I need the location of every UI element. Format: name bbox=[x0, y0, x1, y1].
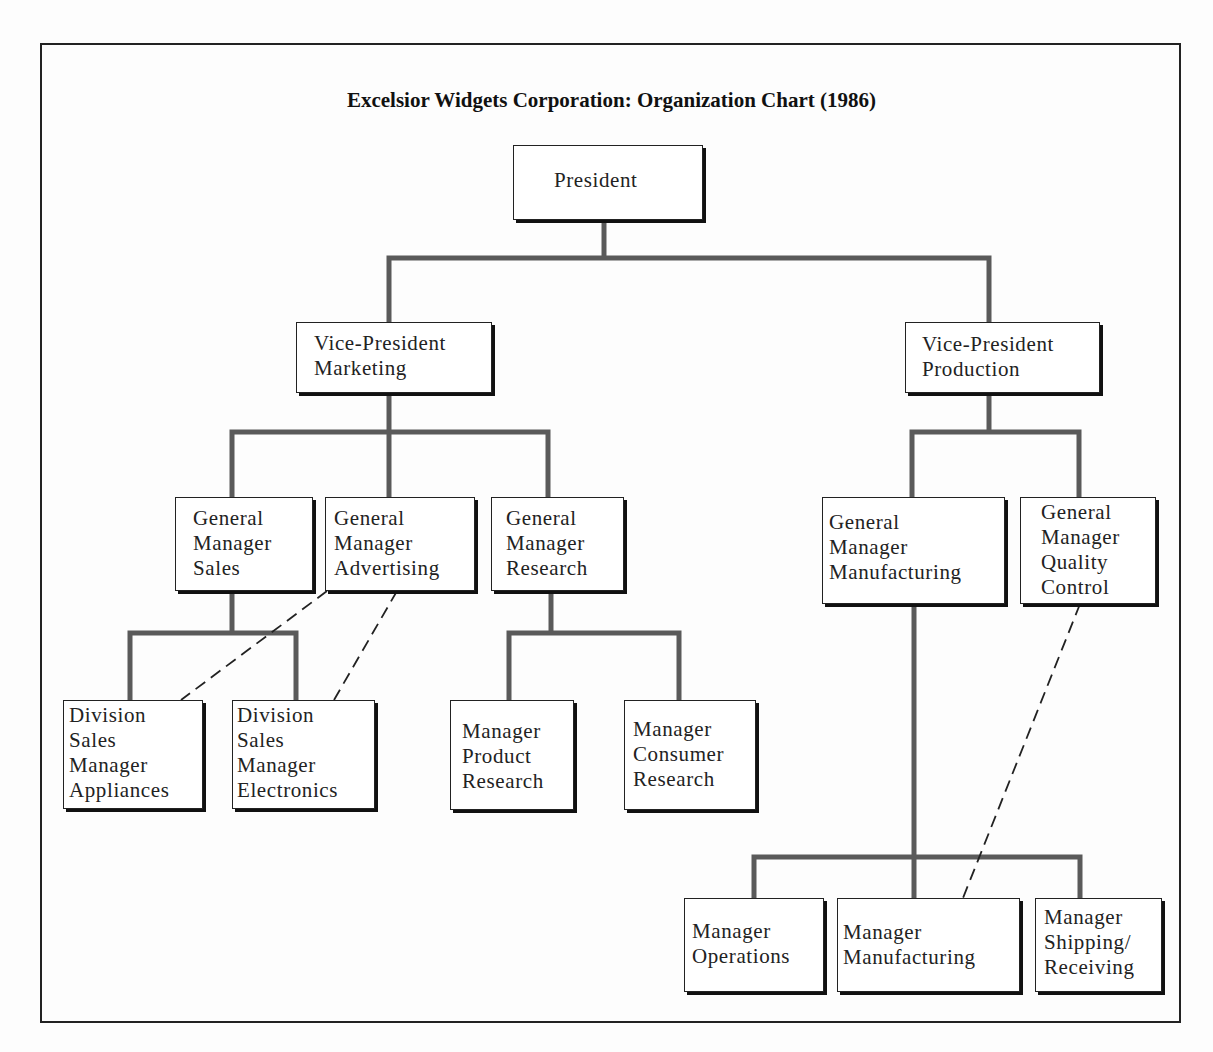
org-box-label: DivisionSalesManagerAppliances bbox=[69, 703, 169, 803]
org-box-label: ManagerConsumerResearch bbox=[633, 717, 724, 792]
dashed-line-gm-quality-control-to-mgr-manufacturing bbox=[963, 604, 1080, 898]
org-box-vp-production: Vice-PresidentProduction bbox=[905, 322, 1100, 393]
org-box-mgr-consumer-research: ManagerConsumerResearch bbox=[624, 700, 756, 810]
org-box-label-line: Quality bbox=[1041, 550, 1120, 575]
org-box-dsm-electronics: DivisionSalesManagerElectronics bbox=[232, 700, 375, 809]
org-box-label-line: Manager bbox=[334, 531, 440, 556]
org-box-label-line: Research bbox=[462, 769, 544, 794]
org-box-label-line: Manager bbox=[843, 920, 976, 945]
org-box-dsm-appliances: DivisionSalesManagerAppliances bbox=[63, 700, 203, 809]
org-box-mgr-shipping-receiving: ManagerShipping/Receiving bbox=[1035, 898, 1162, 992]
org-box-label-line: Manager bbox=[1044, 905, 1135, 930]
org-box-label: GeneralManagerManufacturing bbox=[829, 510, 962, 585]
org-box-label-line: Production bbox=[922, 357, 1054, 382]
connector-vp-production-branch bbox=[912, 432, 1079, 497]
connector-gm-manufacturing-branch bbox=[754, 857, 1080, 898]
org-box-mgr-manufacturing: ManagerManufacturing bbox=[837, 898, 1020, 992]
org-box-label-line: Manufacturing bbox=[829, 560, 962, 585]
org-box-label-line: Manager bbox=[633, 717, 724, 742]
org-box-label: ManagerOperations bbox=[692, 919, 790, 969]
org-box-label-line: Sales bbox=[237, 728, 338, 753]
org-box-label-line: Consumer bbox=[633, 742, 724, 767]
org-box-label: GeneralManagerAdvertising bbox=[334, 506, 440, 581]
dashed-line-gm-advertising-to-dsm-appliances bbox=[181, 591, 327, 700]
org-box-label-line: Marketing bbox=[314, 356, 446, 381]
org-box-label-line: Shipping/ bbox=[1044, 930, 1135, 955]
org-box-label-line: General bbox=[829, 510, 962, 535]
org-box-label-line: General bbox=[506, 506, 588, 531]
org-box-gm-manufacturing: GeneralManagerManufacturing bbox=[822, 497, 1005, 604]
org-box-label: ManagerProductResearch bbox=[462, 719, 544, 794]
org-box-label-line: Electronics bbox=[237, 778, 338, 803]
org-box-mgr-product-research: ManagerProductResearch bbox=[450, 700, 574, 810]
org-box-label-line: Operations bbox=[692, 944, 790, 969]
org-box-label-line: Manager bbox=[193, 531, 272, 556]
org-box-label: GeneralManagerQualityControl bbox=[1041, 500, 1120, 600]
org-box-gm-quality-control: GeneralManagerQualityControl bbox=[1020, 497, 1156, 604]
org-box-label-line: General bbox=[1041, 500, 1120, 525]
org-box-label-line: Research bbox=[506, 556, 588, 581]
org-box-label-line: General bbox=[193, 506, 272, 531]
org-box-label-line: Manager bbox=[692, 919, 790, 944]
org-box-label-line: Appliances bbox=[69, 778, 169, 803]
org-box-label: ManagerShipping/Receiving bbox=[1044, 905, 1135, 980]
org-box-label-line: Research bbox=[633, 767, 724, 792]
org-box-gm-research: GeneralManagerResearch bbox=[491, 497, 624, 591]
dashed-line-gm-advertising-to-dsm-electronics bbox=[334, 591, 397, 700]
org-box-label: President bbox=[554, 168, 638, 193]
org-box-label-line: Manager bbox=[829, 535, 962, 560]
org-box-label-line: Sales bbox=[193, 556, 272, 581]
org-box-label-line: Receiving bbox=[1044, 955, 1135, 980]
connector-president-branch bbox=[389, 258, 989, 322]
org-box-label-line: Division bbox=[69, 703, 169, 728]
org-box-label-line: Manager bbox=[237, 753, 338, 778]
org-box-label: Vice-PresidentProduction bbox=[922, 332, 1054, 382]
org-box-label: GeneralManagerResearch bbox=[506, 506, 588, 581]
org-box-label-line: President bbox=[554, 168, 638, 193]
connector-gm-research-branch bbox=[509, 633, 679, 700]
org-box-label-line: Vice-President bbox=[922, 332, 1054, 357]
org-box-vp-marketing: Vice-PresidentMarketing bbox=[296, 322, 492, 393]
org-box-label-line: Manager bbox=[1041, 525, 1120, 550]
org-box-label-line: Product bbox=[462, 744, 544, 769]
org-box-label-line: Manager bbox=[69, 753, 169, 778]
org-box-label-line: Control bbox=[1041, 575, 1120, 600]
org-box-label-line: Advertising bbox=[334, 556, 440, 581]
org-box-label-line: Manufacturing bbox=[843, 945, 976, 970]
connector-gm-sales-branch bbox=[130, 633, 296, 700]
org-box-label-line: Vice-President bbox=[314, 331, 446, 356]
org-box-president: President bbox=[513, 145, 703, 220]
org-box-label-line: Sales bbox=[69, 728, 169, 753]
org-box-label: ManagerManufacturing bbox=[843, 920, 976, 970]
org-box-label-line: Manager bbox=[506, 531, 588, 556]
org-box-gm-sales: GeneralManagerSales bbox=[175, 497, 313, 591]
org-box-label: Vice-PresidentMarketing bbox=[314, 331, 446, 381]
org-box-mgr-operations: ManagerOperations bbox=[684, 898, 824, 992]
org-box-gm-advertising: GeneralManagerAdvertising bbox=[325, 497, 475, 591]
org-box-label-line: General bbox=[334, 506, 440, 531]
org-box-label-line: Manager bbox=[462, 719, 544, 744]
org-box-label: DivisionSalesManagerElectronics bbox=[237, 703, 338, 803]
org-box-label-line: Division bbox=[237, 703, 338, 728]
org-box-label: GeneralManagerSales bbox=[193, 506, 272, 581]
